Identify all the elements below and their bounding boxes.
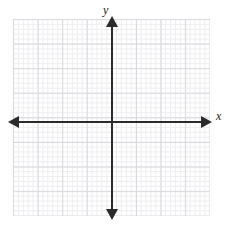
- y-axis-arrow-down-icon: [106, 209, 118, 220]
- y-axis-arrow-up-icon: [106, 16, 118, 27]
- y-axis-line: [111, 27, 113, 209]
- x-axis-label: x: [216, 110, 221, 122]
- coordinate-plane-figure: x y: [0, 0, 230, 230]
- x-axis-line: [19, 121, 201, 123]
- y-axis-label: y: [103, 4, 108, 16]
- x-axis-arrow-left-icon: [8, 116, 19, 128]
- x-axis-arrow-right-icon: [201, 116, 212, 128]
